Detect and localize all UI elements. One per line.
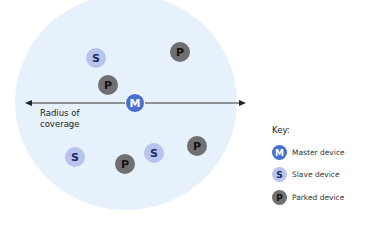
master-device-node: M xyxy=(125,93,145,113)
slave-device-node: S xyxy=(86,48,106,68)
slave-device-node: S xyxy=(65,147,85,167)
key-label: Parked device xyxy=(292,193,344,202)
master-icon: M xyxy=(272,145,287,160)
parked-device-node: P xyxy=(187,136,207,156)
radius-label-line-2: coverage xyxy=(40,119,79,130)
parked-device-node: P xyxy=(115,154,135,174)
arrow-right-head xyxy=(239,100,246,106)
slave-device-node: S xyxy=(144,143,164,163)
radius-label-line-1: Radius of xyxy=(40,108,79,119)
key-item-master: M Master device xyxy=(272,145,345,160)
radius-label: Radius of coverage xyxy=(40,108,79,130)
key-label: Master device xyxy=(292,148,345,157)
parked-device-node: P xyxy=(170,42,190,62)
key-title: Key: xyxy=(272,125,290,135)
key-item-parked: P Parked device xyxy=(272,190,344,205)
key-item-slave: S Slave device xyxy=(272,167,340,182)
slave-icon: S xyxy=(272,167,287,182)
parked-icon: P xyxy=(272,190,287,205)
key-label: Slave device xyxy=(292,170,340,179)
parked-device-node: P xyxy=(98,75,118,95)
arrow-left-head xyxy=(25,100,32,106)
